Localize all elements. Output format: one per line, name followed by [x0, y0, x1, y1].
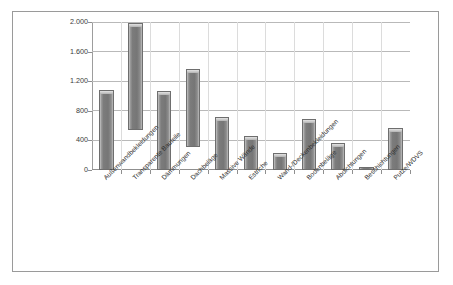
- plot-area: [92, 22, 410, 170]
- bar-highlight: [389, 129, 401, 132]
- y-axis-line: [92, 22, 93, 170]
- x-axis-tick-mark: [121, 170, 122, 174]
- x-axis-tick-mark: [352, 170, 353, 174]
- y-axis-tick-label: 1.200: [70, 77, 88, 85]
- y-axis-tick-mark: [88, 52, 92, 53]
- bar-highlight: [187, 70, 199, 73]
- category-separator: [150, 22, 151, 170]
- x-axis-tick-mark: [265, 170, 266, 174]
- bar-5: [215, 117, 229, 170]
- x-axis-tick-mark: [294, 170, 295, 174]
- x-axis-tick-mark: [179, 170, 180, 174]
- bar-6: [244, 136, 258, 170]
- x-axis-tick-mark: [381, 170, 382, 174]
- bar-highlight: [129, 24, 141, 27]
- x-axis-tick-mark: [150, 170, 151, 174]
- bar-7: [273, 153, 287, 170]
- y-axis-tick-mark: [88, 22, 92, 23]
- bar-highlight: [274, 154, 286, 157]
- x-axis-tick-mark: [208, 170, 209, 174]
- x-axis-tick-mark: [237, 170, 238, 174]
- y-axis-tick-labels: 04008001.2001.6002.000: [40, 0, 88, 285]
- y-axis-tick-mark: [88, 111, 92, 112]
- bar-highlight: [332, 144, 344, 147]
- category-separator: [237, 22, 238, 170]
- category-separator: [381, 22, 382, 170]
- bar-4: [186, 69, 200, 147]
- bar-10: [359, 167, 373, 170]
- bar-9: [331, 143, 345, 170]
- category-separator: [265, 22, 266, 170]
- bar-highlight: [158, 92, 170, 95]
- y-axis-tick-mark: [88, 170, 92, 171]
- y-axis-tick-label: 1.600: [70, 48, 88, 56]
- y-axis-tick-mark: [88, 140, 92, 141]
- bar-highlight: [303, 120, 315, 123]
- category-separator: [294, 22, 295, 170]
- category-separator: [323, 22, 324, 170]
- bar-3: [157, 91, 171, 170]
- bar-highlight: [245, 137, 257, 140]
- x-axis-tick-mark: [410, 170, 411, 174]
- y-axis-tick-mark: [88, 81, 92, 82]
- category-separator: [352, 22, 353, 170]
- bar-2: [128, 23, 142, 130]
- category-separator: [208, 22, 209, 170]
- bar-11: [388, 128, 402, 170]
- category-separator: [179, 22, 180, 170]
- bar-8: [302, 119, 316, 170]
- bar-highlight: [100, 91, 112, 94]
- chart-figure: Primärenergiegehalt (nicht erneuerbar) i…: [0, 0, 453, 285]
- y-axis-tick-label: 2.000: [70, 18, 88, 26]
- bar-1: [99, 90, 113, 170]
- y-axis-tick-label: 800: [76, 107, 88, 115]
- bar-highlight: [216, 118, 228, 121]
- x-axis-tick-mark: [323, 170, 324, 174]
- y-axis-tick-label: 400: [76, 136, 88, 144]
- category-separator: [121, 22, 122, 170]
